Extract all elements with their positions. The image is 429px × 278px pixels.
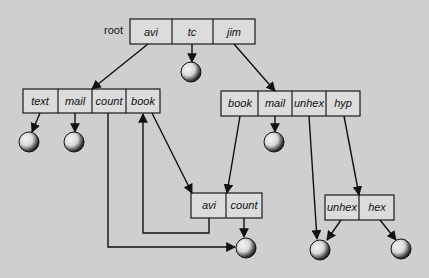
edge-avi-text [32,113,40,132]
jim-directory-node: book mail unhex hyp [221,91,360,116]
book-dir-cell-count: count [231,199,259,211]
jim-dir-cell-unhex: unhex [294,97,324,109]
root-cell-avi: avi [144,26,159,38]
avi-dir-cell-book: book [131,95,155,107]
edge-avi-book [152,113,192,193]
edge-root-avi [92,44,148,89]
jim-dir-cell-book: book [228,97,252,109]
file-sphere-tc-icon [181,62,201,82]
edge-avi-count [108,113,235,247]
hyp-dir-cell-unhex: unhex [327,201,357,213]
book-dir-cell-avi: avi [202,199,217,211]
avi-dir-cell-text: text [31,95,50,107]
hyp-dir-cell-hex: hex [368,201,386,213]
directory-graph-diagram: root avi tc jim text mail count book boo… [0,0,429,278]
jim-dir-cell-hyp: hyp [334,97,352,109]
file-sphere-unhex-icon [310,240,330,260]
avi-dir-cell-count: count [96,95,124,107]
file-sphere-mail-avi-icon [64,132,84,152]
root-cell-tc: tc [188,26,197,38]
file-sphere-count-icon [236,238,256,258]
edge-jim-hyp [344,116,359,195]
book-directory-node: avi count [191,193,262,218]
file-sphere-mail-jim-icon [264,132,284,152]
avi-directory-node: text mail count book [23,89,160,113]
edge-jim-unhex [309,116,317,239]
edge-jim-book [227,116,240,193]
root-label: root [104,24,123,36]
file-sphere-hex-icon [391,239,411,259]
hyp-directory-node: unhex hex [325,195,394,220]
edge-root-jim [234,44,275,91]
jim-dir-cell-mail: mail [265,97,286,109]
edge-hyp-hex [380,220,396,240]
file-sphere-text-icon [19,132,39,152]
root-directory-node: avi tc jim [130,19,255,44]
edge-hyp-unhex [327,220,341,240]
root-cell-jim: jim [225,26,241,38]
avi-dir-cell-mail: mail [65,95,86,107]
